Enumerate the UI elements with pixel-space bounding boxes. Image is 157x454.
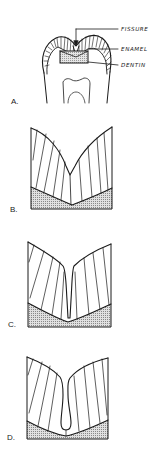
panel-d-bulbous-fissure <box>27 357 108 439</box>
fissure-diagram: FISSURE ENAMEL DENTIN A. B. <box>0 0 157 454</box>
label-fissure: FISSURE <box>121 26 148 32</box>
panel-b-shallow-fissure <box>31 127 112 209</box>
panel-c-slit-fissure <box>28 242 111 327</box>
label-enamel: ENAMEL <box>121 46 148 52</box>
panel-label-b: B. <box>10 205 18 214</box>
panel-label-d: D. <box>7 433 15 442</box>
label-dentin: DENTIN <box>121 62 146 68</box>
panel-label-a: A. <box>11 97 19 106</box>
panel-label-c: C. <box>8 320 16 329</box>
